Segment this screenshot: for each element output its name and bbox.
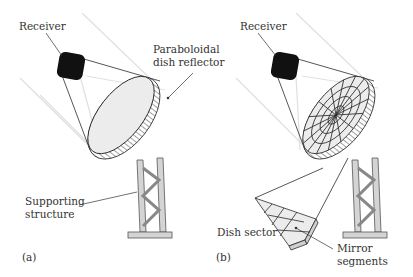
- segmented-dish: [289, 64, 389, 172]
- supporting-structure: [128, 158, 172, 238]
- caption-b: (b): [216, 251, 231, 263]
- label-mirror-line1: Mirror: [337, 242, 373, 254]
- label-reflector-line1: Paraboloidal: [153, 43, 220, 55]
- panel-b: [236, 13, 389, 250]
- label-receiver-a: Receiver: [19, 20, 66, 32]
- diagram-canvas: [0, 0, 413, 277]
- receiver-leader: [46, 33, 62, 56]
- receiver-icon: [56, 51, 86, 81]
- structure-leader: [79, 192, 137, 205]
- label-dish-sector: Dish sector: [217, 226, 277, 238]
- label-reflector-line2: dish reflector: [153, 56, 224, 68]
- label-structure-line2: structure: [25, 208, 75, 220]
- receiver-leader: [258, 33, 276, 56]
- reflector-leader: [168, 73, 193, 98]
- caption-a: (a): [22, 251, 36, 263]
- label-receiver-b: Receiver: [240, 20, 287, 32]
- receiver-icon: [270, 51, 300, 81]
- label-structure-line1: Supporting: [25, 195, 85, 207]
- label-mirror-line2: segments: [337, 255, 388, 267]
- supporting-structure: [343, 158, 387, 238]
